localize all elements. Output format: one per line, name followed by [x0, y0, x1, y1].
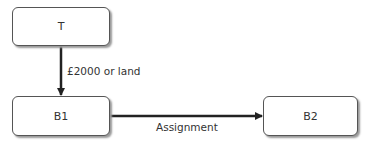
node-b1: B1: [12, 96, 110, 136]
node-t: T: [12, 7, 110, 46]
edge-label-t-to-b1: £2000 or land: [67, 65, 141, 77]
node-b1-label: B1: [54, 110, 69, 123]
edge-label-b1-to-b2: Assignment: [156, 121, 218, 133]
node-t-label: T: [58, 20, 65, 33]
node-b2-label: B2: [303, 110, 318, 123]
node-b2: B2: [263, 96, 358, 136]
